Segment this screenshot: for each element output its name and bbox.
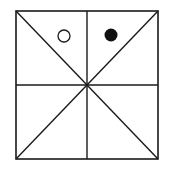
filled-circle [105, 29, 118, 42]
open-circle [58, 30, 70, 42]
divided-square-diagram [0, 0, 169, 172]
